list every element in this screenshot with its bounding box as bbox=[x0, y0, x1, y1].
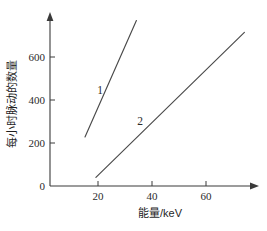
x-axis-arrow-icon bbox=[250, 183, 259, 190]
series-line-2 bbox=[96, 32, 245, 177]
x-axis-title: 能量/keV bbox=[138, 206, 183, 219]
series-label-1: 1 bbox=[97, 84, 103, 96]
y-axis-title: 每小时脉动的数量 bbox=[5, 60, 18, 148]
x-tick-label-20: 20 bbox=[93, 190, 105, 202]
chart-plot-area: 600 400 200 0 20 40 60 1 2 能量/keV 每小时脉动的… bbox=[0, 0, 267, 231]
series-label-2: 2 bbox=[137, 115, 143, 127]
chart-figure: 600 400 200 0 20 40 60 1 2 能量/keV 每小时脉动的… bbox=[0, 0, 267, 231]
x-tick-label-40: 40 bbox=[147, 190, 159, 202]
series-line-1 bbox=[85, 21, 136, 138]
y-tick-label-0: 0 bbox=[40, 180, 46, 192]
x-tick-label-60: 60 bbox=[201, 190, 213, 202]
y-tick-label-400: 400 bbox=[29, 94, 46, 106]
y-axis-arrow-icon bbox=[47, 12, 54, 21]
y-tick-label-200: 200 bbox=[29, 137, 46, 149]
y-tick-label-600: 600 bbox=[29, 51, 46, 63]
